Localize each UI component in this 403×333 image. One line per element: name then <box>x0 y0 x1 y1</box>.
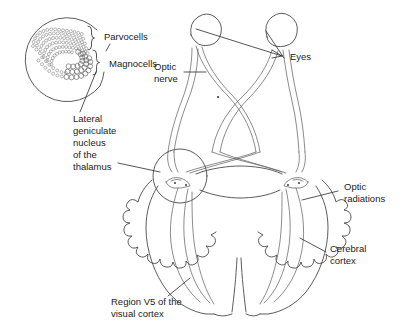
label-cerebral-cortex-line2: cortex <box>330 255 356 266</box>
midbrain-lower <box>200 190 280 198</box>
label-optic-nerve-line1: Optic <box>154 61 176 72</box>
right-tract-a <box>296 152 299 172</box>
optic-chiasm-point <box>217 96 219 98</box>
right-radiation-3 <box>260 192 282 304</box>
label-parvocells: Parvocells <box>104 31 148 42</box>
leader-lgn-text-to-circle <box>118 163 160 172</box>
leader-cerebral-cortex <box>300 238 326 252</box>
text-labels-group: Parvocells Magnocells Lateral geniculate… <box>73 31 385 319</box>
cortex-right-pole <box>246 314 260 316</box>
left-eye-globe <box>191 14 222 46</box>
label-cerebral-cortex-line1: Cerebral <box>330 243 366 254</box>
label-optic-radiations-line2: radiations <box>344 193 385 204</box>
label-lgn-line4: of the <box>73 149 97 160</box>
left-nerve-outer <box>196 46 256 152</box>
visual-pathway-diagram: Parvocells Magnocells Lateral geniculate… <box>0 0 403 333</box>
optic-radiations-group <box>170 188 303 304</box>
label-lgn-line3: nucleus <box>73 137 106 148</box>
left-tract-a <box>168 152 172 172</box>
label-eyes: Eyes <box>290 51 311 62</box>
left-radiation-3 <box>192 192 214 304</box>
cortex-right-inner <box>260 186 328 314</box>
label-region-v5-line2: visual cortex <box>111 308 164 319</box>
left-nerve-uncrossed-inner <box>174 49 198 152</box>
eyes-group <box>191 13 298 46</box>
label-lgn-line2: geniculate <box>73 125 116 136</box>
right-eye-globe <box>266 13 298 46</box>
lgn-highlight-circle <box>153 149 207 203</box>
right-lgn-body-fold <box>293 179 303 181</box>
right-tract-d <box>220 152 286 173</box>
right-nerve-outer <box>212 50 272 152</box>
right-lgn-group <box>284 178 308 189</box>
right-lgn-dot-2 <box>287 184 289 186</box>
cortex-left-outer <box>123 180 216 268</box>
figure-canvas: Parvocells Magnocells Lateral geniculate… <box>0 0 403 333</box>
label-lgn-line1: Lateral <box>73 113 102 124</box>
cortex-left-inner <box>146 186 214 314</box>
cerebral-cortex-group <box>123 166 351 316</box>
lgn-dot-1 <box>174 182 176 184</box>
cortex-midline-fissure-2 <box>241 258 246 312</box>
right-nerve-uncrossed-inner <box>289 50 305 152</box>
parvo-magno-divider-tick <box>106 44 110 51</box>
lgn-dot-2 <box>185 184 187 186</box>
label-lgn-line5: thalamus <box>73 161 112 172</box>
left-tract-b <box>174 152 178 172</box>
magnocells-brace <box>93 50 100 75</box>
label-optic-radiations-line1: Optic <box>344 181 366 192</box>
label-region-v5-line1: Region V5 of the <box>111 296 182 307</box>
parvocells-brace <box>88 26 95 50</box>
cortex-midline-fissure <box>232 258 237 312</box>
lgn-highlight-group <box>153 149 207 203</box>
lgn-inset-group <box>25 18 110 102</box>
magnocell-layers <box>64 49 93 80</box>
cortex-left-pole <box>214 314 232 316</box>
lgn-body-fold <box>171 179 181 181</box>
label-optic-nerve-line2: nerve <box>154 73 178 84</box>
lgn-inset-circle-arc2 <box>100 72 104 86</box>
optic-pathway-group <box>168 46 306 173</box>
right-nerve-inner <box>220 51 278 152</box>
label-magnocells: Magnocells <box>109 58 157 69</box>
right-tract-b <box>302 152 305 172</box>
right-lgn-dot-1 <box>298 182 300 184</box>
